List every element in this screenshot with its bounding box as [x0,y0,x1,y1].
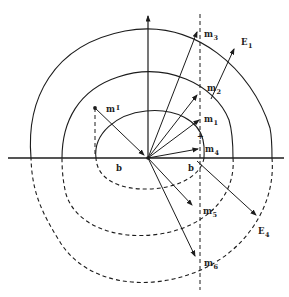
mI-point [93,106,97,110]
ellipsoid-contour-diagram: mI m3 m2 m1 m4 m5 m6 E1 E4 b b + [0,0,289,297]
vector-m4 [148,149,198,158]
label-m5: m5 [203,206,218,219]
label-m3: m3 [204,29,219,42]
label-b-right: b [188,163,194,173]
outer-contour-solid [30,29,272,158]
label-b-left: b [116,163,122,173]
vector-mI [95,108,144,155]
middle-contour-dashed [62,158,233,236]
vector-m3 [148,32,197,158]
vector-m5 [148,158,192,205]
origin-point [146,156,150,160]
labels: mI m3 m2 m1 m4 m5 m6 E1 E4 b b + [106,29,270,271]
diagram-canvas: mI m3 m2 m1 m4 m5 m6 E1 E4 b b + [0,0,289,297]
outer-contour-dashed [31,158,272,282]
label-m4: m4 [205,144,220,157]
label-E4: E4 [258,226,270,239]
label-m6: m6 [204,258,219,271]
label-E1: E1 [241,37,253,50]
label-m1: m1 [204,114,218,127]
plus-marker: + [197,131,204,141]
label-mI: mI [106,104,120,115]
